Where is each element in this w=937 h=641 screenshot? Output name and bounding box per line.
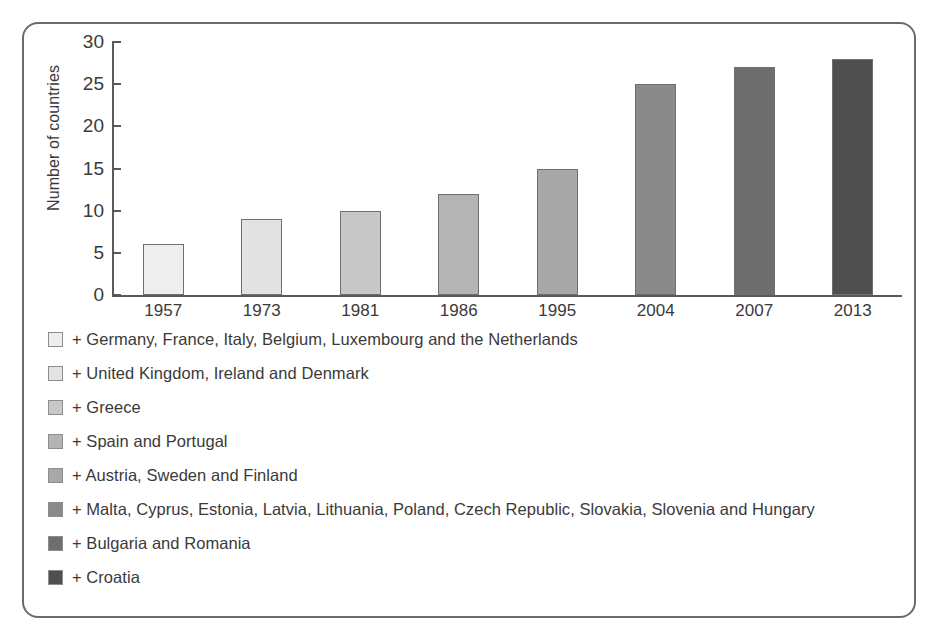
- legend-item: + Spain and Portugal: [48, 424, 908, 458]
- legend-item-label: + United Kingdom, Ireland and Denmark: [72, 364, 369, 383]
- legend-item: + Greece: [48, 390, 908, 424]
- legend-item-label: + Bulgaria and Romania: [72, 534, 251, 553]
- x-tick-label: 1973: [217, 302, 307, 319]
- y-tick-label: 30: [54, 32, 104, 51]
- x-tick-label: 1986: [414, 302, 504, 319]
- legend-item: + Croatia: [48, 560, 908, 594]
- x-tick-label: 1995: [512, 302, 602, 319]
- bar-1957: [143, 244, 184, 295]
- legend-item-label: + Malta, Cyprus, Estonia, Latvia, Lithua…: [72, 500, 815, 519]
- legend-item-label: + Croatia: [72, 568, 140, 587]
- legend-swatch-icon: [48, 434, 63, 449]
- legend-item: + Germany, France, Italy, Belgium, Luxem…: [48, 322, 908, 356]
- x-tick-label: 1957: [118, 302, 208, 319]
- legend-swatch-icon: [48, 366, 63, 381]
- legend-swatch-icon: [48, 400, 63, 415]
- legend-item-label: + Germany, France, Italy, Belgium, Luxem…: [72, 330, 578, 349]
- chart-legend: + Germany, France, Italy, Belgium, Luxem…: [48, 322, 908, 594]
- legend-item-label: + Greece: [72, 398, 141, 417]
- bar-2013: [832, 59, 873, 295]
- y-tick-label: 10: [54, 201, 104, 220]
- bar-1981: [340, 211, 381, 295]
- bar-2004: [635, 84, 676, 295]
- figure-frame: Number of countries 051015202530 1957197…: [22, 22, 916, 618]
- legend-swatch-icon: [48, 570, 63, 585]
- legend-swatch-icon: [48, 332, 63, 347]
- legend-swatch-icon: [48, 502, 63, 517]
- y-tick-label: 5: [54, 243, 104, 262]
- y-tick-label: 0: [54, 285, 104, 304]
- legend-swatch-icon: [48, 536, 63, 551]
- x-tick-label: 2004: [611, 302, 701, 319]
- bar-1995: [537, 169, 578, 296]
- bar-2007: [734, 67, 775, 295]
- x-tick-label: 2013: [808, 302, 898, 319]
- x-tick-label: 2007: [709, 302, 799, 319]
- x-tick-label: 1981: [315, 302, 405, 319]
- chart-plot-area: Number of countries 051015202530 1957197…: [24, 24, 918, 314]
- y-tick-label: 20: [54, 116, 104, 135]
- legend-item-label: + Spain and Portugal: [72, 432, 228, 451]
- legend-item: + Bulgaria and Romania: [48, 526, 908, 560]
- legend-item: + United Kingdom, Ireland and Denmark: [48, 356, 908, 390]
- bar-1973: [241, 219, 282, 295]
- legend-item-label: + Austria, Sweden and Finland: [72, 466, 298, 485]
- y-tick-label: 15: [54, 159, 104, 178]
- legend-swatch-icon: [48, 468, 63, 483]
- bar-1986: [438, 194, 479, 295]
- legend-item: + Austria, Sweden and Finland: [48, 458, 908, 492]
- legend-item: + Malta, Cyprus, Estonia, Latvia, Lithua…: [48, 492, 908, 526]
- x-axis-line: [112, 295, 902, 297]
- bar-series: [114, 42, 902, 295]
- y-tick-label: 25: [54, 74, 104, 93]
